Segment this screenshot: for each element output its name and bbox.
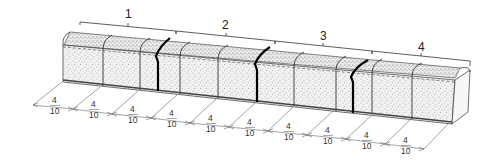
group-label-2: 2 bbox=[222, 18, 229, 32]
dimension-label: 4 10 bbox=[206, 113, 216, 134]
dimension-label: 4 10 bbox=[167, 108, 177, 129]
group-label-4: 4 bbox=[418, 40, 425, 54]
svg-text:4: 4 bbox=[286, 121, 291, 131]
curb-row bbox=[63, 32, 470, 124]
svg-text:10: 10 bbox=[362, 141, 372, 151]
group-label-3: 3 bbox=[320, 29, 327, 43]
svg-text:10: 10 bbox=[167, 119, 177, 129]
svg-text:4: 4 bbox=[364, 130, 369, 140]
svg-text:4: 4 bbox=[325, 125, 330, 135]
dimension-label: 4 10 bbox=[128, 104, 138, 125]
svg-text:4: 4 bbox=[52, 95, 57, 105]
svg-text:10: 10 bbox=[128, 115, 138, 125]
svg-text:10: 10 bbox=[245, 128, 255, 138]
svg-text:4: 4 bbox=[130, 104, 135, 114]
svg-text:4: 4 bbox=[208, 113, 213, 123]
curb-stone-diagram: 1 2 3 4 4 10 4 bbox=[0, 0, 495, 166]
svg-text:10: 10 bbox=[50, 106, 60, 116]
dimension-label: 4 10 bbox=[323, 125, 333, 146]
svg-text:10: 10 bbox=[401, 146, 411, 156]
dimension-label: 4 10 bbox=[50, 95, 60, 116]
svg-text:10: 10 bbox=[323, 136, 333, 146]
dimension-label: 4 10 bbox=[401, 135, 411, 156]
dimension-label: 4 10 bbox=[284, 121, 294, 142]
svg-text:4: 4 bbox=[403, 135, 408, 145]
dimension-label: 4 10 bbox=[362, 130, 372, 151]
dimension-label: 4 10 bbox=[245, 117, 255, 138]
svg-text:4: 4 bbox=[247, 117, 252, 127]
svg-text:10: 10 bbox=[284, 132, 294, 142]
svg-text:4: 4 bbox=[169, 108, 174, 118]
group-label-1: 1 bbox=[125, 7, 132, 21]
svg-text:10: 10 bbox=[89, 110, 99, 120]
svg-text:10: 10 bbox=[206, 124, 216, 134]
dimension-label: 4 10 bbox=[89, 99, 99, 120]
svg-text:4: 4 bbox=[91, 99, 96, 109]
